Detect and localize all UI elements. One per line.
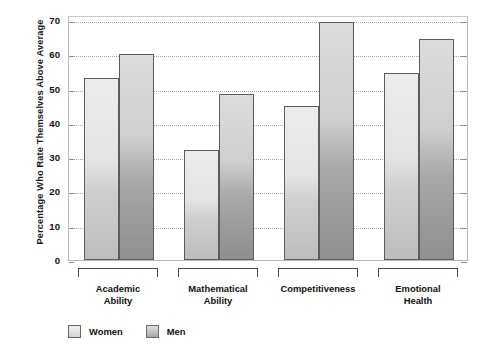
- y-tick-left-70: [69, 22, 74, 23]
- y-tick-left-40: [69, 125, 74, 126]
- gridline-70: [69, 22, 467, 23]
- y-tick-right-60: [461, 56, 467, 57]
- plot-inner: [69, 17, 467, 260]
- legend-label: Men: [167, 326, 186, 337]
- bar-men-1: [219, 94, 254, 260]
- bar-women-2: [284, 106, 319, 260]
- category-label-line: Ability: [168, 295, 268, 307]
- y-tick-right-30: [461, 159, 467, 160]
- y-tick-left-20: [69, 193, 74, 194]
- women-swatch: [68, 325, 81, 338]
- y-tick-right-40: [461, 125, 467, 126]
- y-tick-label-70: 70: [34, 15, 60, 26]
- category-label-line: Competitiveness: [268, 283, 368, 295]
- legend-item-women[interactable]: Women: [68, 325, 123, 338]
- chart-legend: WomenMen: [68, 322, 208, 340]
- y-tick-left-60: [69, 56, 74, 57]
- category-label-3: EmotionalHealth: [368, 283, 468, 306]
- plot-area: [68, 16, 468, 261]
- category-label-1: MathematicalAbility: [168, 283, 268, 306]
- bar-men-3: [419, 39, 454, 260]
- y-tick-left-30: [69, 159, 74, 160]
- bar-women-1: [184, 150, 219, 260]
- bar-men-2: [319, 22, 354, 260]
- category-label-line: Emotional: [368, 283, 468, 295]
- y-tick-label-0: 0: [34, 255, 60, 266]
- y-tick-right-0: [461, 262, 467, 263]
- category-bracket-3: [378, 268, 458, 277]
- category-bracket-1: [178, 268, 258, 277]
- category-label-line: Mathematical: [168, 283, 268, 295]
- y-tick-right-50: [461, 91, 467, 92]
- y-tick-left-10: [69, 228, 74, 229]
- category-label-line: Ability: [68, 295, 168, 307]
- category-label-0: AcademicAbility: [68, 283, 168, 306]
- y-tick-left-0: [69, 262, 74, 263]
- y-tick-label-30: 30: [34, 152, 60, 163]
- y-tick-label-40: 40: [34, 118, 60, 129]
- category-label-line: Academic: [68, 283, 168, 295]
- y-tick-label-20: 20: [34, 186, 60, 197]
- category-label-line: Health: [368, 295, 468, 307]
- y-tick-label-50: 50: [34, 84, 60, 95]
- y-tick-label-60: 60: [34, 49, 60, 60]
- category-bracket-0: [78, 268, 158, 277]
- bar-women-3: [384, 73, 419, 260]
- y-tick-label-10: 10: [34, 221, 60, 232]
- category-label-2: Competitiveness: [268, 283, 368, 295]
- category-bracket-2: [278, 268, 358, 277]
- men-swatch: [146, 325, 159, 338]
- legend-label: Women: [89, 326, 123, 337]
- y-tick-right-10: [461, 228, 467, 229]
- bar-men-0: [119, 54, 154, 260]
- y-tick-right-70: [461, 22, 467, 23]
- legend-item-men[interactable]: Men: [146, 325, 186, 338]
- y-tick-left-50: [69, 91, 74, 92]
- y-tick-right-20: [461, 193, 467, 194]
- bar-women-0: [84, 78, 119, 260]
